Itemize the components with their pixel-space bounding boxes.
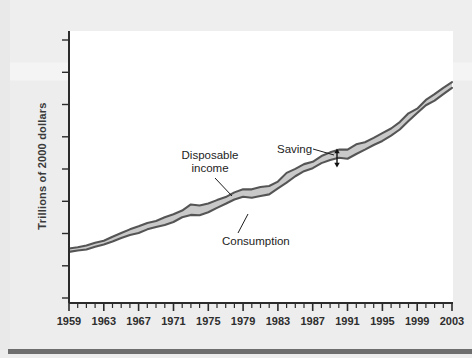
- chart-geometry: [68, 31, 453, 303]
- x-axis-tick-label: 1983: [266, 315, 290, 327]
- x-axis-tick-label: 2003: [440, 315, 464, 327]
- chart-canvas: 1959196319671971197519791983198719911995…: [0, 0, 472, 358]
- y-axis-ticks: [62, 40, 69, 298]
- x-axis-tick-label: 1987: [300, 315, 324, 327]
- bottom-rule: [8, 349, 472, 354]
- disposable-income-label-line2: income: [191, 162, 228, 174]
- x-axis-tick-label: 1959: [57, 315, 81, 327]
- x-axis-tick-label: 1991: [335, 315, 359, 327]
- x-axis-tick-label: 1971: [161, 315, 185, 327]
- saving-label: Saving: [277, 143, 312, 155]
- x-axis-tick-label: 1999: [405, 315, 429, 327]
- consumption-label: Consumption: [222, 235, 290, 247]
- x-axis-tick-labels: 1959196319671971197519791983198719911995…: [57, 315, 464, 327]
- plot-clear-rect: [68, 31, 453, 303]
- figure-container: Trillions of 2000 dollars 19591963196719…: [0, 0, 472, 358]
- disposable-income-label-line1: Disposable: [182, 149, 239, 161]
- x-axis-tick-label: 1995: [370, 315, 394, 327]
- x-axis-tick-label: 1975: [196, 315, 220, 327]
- x-axis-ticks: [69, 303, 452, 311]
- x-axis-tick-label: 1979: [231, 315, 255, 327]
- x-axis-tick-label: 1967: [126, 315, 150, 327]
- x-axis-tick-label: 1963: [92, 315, 116, 327]
